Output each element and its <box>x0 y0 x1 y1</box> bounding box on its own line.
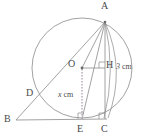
right-angle-marker-h <box>99 62 105 68</box>
vertex-label-d: D <box>26 88 33 98</box>
line-b-c <box>16 119 107 120</box>
vertex-label-e: E <box>77 124 83 134</box>
measure-label-xcm: x cm <box>58 91 73 99</box>
measure-label-3cm: 3 cm <box>116 63 132 71</box>
vertex-label-c: C <box>101 124 108 134</box>
measure-unit-cm-1: cm <box>122 62 132 71</box>
vertex-label-h: H <box>106 60 113 70</box>
center-point-dot <box>81 67 84 70</box>
vertex-point-dot-a <box>104 21 107 24</box>
vertex-label-b: B <box>4 114 11 124</box>
measure-unit-cm-2: cm <box>64 90 74 99</box>
vertex-label-a: A <box>101 1 108 11</box>
line-o-a <box>82 22 105 68</box>
arc-a-to-c <box>105 22 116 118</box>
line-a-e <box>82 22 105 119</box>
vertex-label-o: O <box>68 59 75 69</box>
line-b-a <box>16 22 105 120</box>
geometry-figure: A B C D E H O 3 cm x cm <box>0 0 146 139</box>
